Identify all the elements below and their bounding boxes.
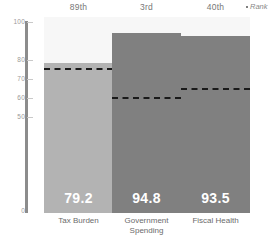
rank-line-fiscal-health bbox=[181, 88, 250, 90]
bar-value-tax-burden: 79.2 bbox=[44, 190, 113, 206]
rank-value-fiscal-health: 40th bbox=[181, 2, 250, 12]
rank-line-tax-burden bbox=[44, 68, 113, 70]
x-axis-label-fiscal-health: Fiscal Health bbox=[181, 216, 250, 226]
rank-value-tax-burden: 89th bbox=[44, 2, 113, 12]
y-tick-mark-60 bbox=[27, 98, 33, 99]
x-axis-label-government-spending: Government Spending bbox=[112, 216, 181, 236]
y-tick-label-80: 80 bbox=[0, 56, 25, 65]
rank-header-row: 89th 3rd 40th Rank bbox=[0, 0, 274, 17]
y-tick-mark-50 bbox=[27, 117, 33, 118]
y-tick-label-70: 70 bbox=[0, 75, 25, 84]
bar-fiscal-health[interactable]: 93.5 bbox=[181, 36, 250, 213]
x-axis-label-tax-burden: Tax Burden bbox=[44, 216, 113, 226]
y-tick-label-100: 100 bbox=[0, 18, 25, 27]
legend-dot-icon bbox=[246, 6, 248, 8]
legend-rank-label: Rank bbox=[250, 2, 268, 11]
bar-government-spending[interactable]: 94.8 bbox=[112, 33, 181, 213]
y-tick-label-60: 60 bbox=[0, 94, 25, 103]
plot-area: 100 80 70 60 50 0 79.2 94.8 93.5 bbox=[0, 17, 274, 213]
y-tick-mark-100 bbox=[27, 22, 33, 23]
y-tick-mark-70 bbox=[27, 79, 33, 80]
y-tick-mark-80 bbox=[27, 60, 33, 61]
bar-tax-burden[interactable]: 79.2 bbox=[44, 63, 113, 213]
rank-value-government-spending: 3rd bbox=[112, 2, 181, 12]
bar-value-government-spending: 94.8 bbox=[112, 190, 181, 206]
legend-rank: Rank bbox=[246, 2, 268, 11]
x-axis: Tax Burden Government Spending Fiscal He… bbox=[0, 213, 274, 245]
bar-chart: 89th 3rd 40th Rank 100 80 70 60 50 0 79.… bbox=[0, 0, 274, 245]
y-tick-label-50: 50 bbox=[0, 113, 25, 122]
bar-value-fiscal-health: 93.5 bbox=[181, 190, 250, 206]
rank-line-government-spending bbox=[112, 97, 181, 99]
